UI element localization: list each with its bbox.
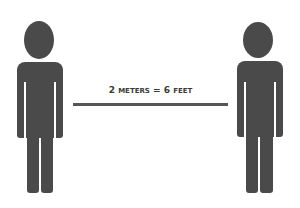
label-unit-feet: FEET bbox=[173, 87, 192, 95]
leg-left bbox=[27, 130, 39, 193]
arm-gap-left bbox=[24, 82, 26, 138]
head bbox=[24, 21, 54, 59]
label-equals: = bbox=[153, 85, 161, 95]
leg-right bbox=[260, 130, 273, 193]
label-number-meters: 2 bbox=[109, 85, 115, 95]
label-unit-meters: METERS bbox=[118, 87, 150, 95]
distance-label: 2 METERS = 6 FEET bbox=[73, 85, 228, 95]
arm-gap-right bbox=[54, 82, 56, 138]
arm-gap-left bbox=[244, 82, 246, 137]
distance-line bbox=[73, 103, 228, 106]
arm-gap-right bbox=[274, 82, 276, 137]
leg-right bbox=[41, 130, 53, 193]
leg-left bbox=[246, 130, 258, 193]
person-right-icon bbox=[236, 0, 286, 208]
person-left-icon bbox=[16, 0, 66, 208]
label-number-feet: 6 bbox=[164, 85, 170, 95]
head bbox=[243, 22, 273, 58]
